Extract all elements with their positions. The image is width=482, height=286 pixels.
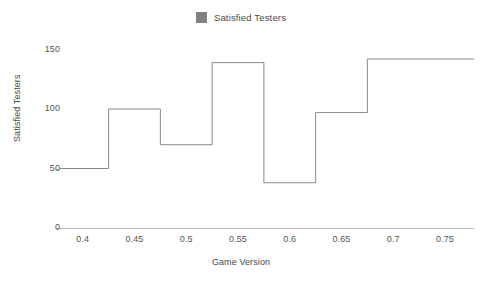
- x-tick-label: 0.65: [322, 234, 362, 244]
- x-tick-label: 0.45: [115, 234, 155, 244]
- y-axis-title-text: Satisfied Testers: [12, 74, 22, 142]
- x-tick-label: 0.4: [63, 234, 103, 244]
- y-tick-label: 100: [24, 103, 60, 113]
- x-tick-label: 0.6: [270, 234, 310, 244]
- x-tick-label: 0.75: [425, 234, 465, 244]
- x-tick-label: 0.5: [166, 234, 206, 244]
- chart-container: Satisfied Testers 0 50 100 150 0.4 0.45 …: [0, 0, 482, 286]
- y-tick-label: 50: [24, 163, 60, 173]
- x-tick-label: 0.7: [373, 234, 413, 244]
- x-axis-title: Game Version: [0, 257, 482, 267]
- y-tick-label: 0: [24, 222, 60, 232]
- series-line-satisfied-testers: [60, 59, 474, 183]
- x-tick-label: 0.55: [218, 234, 258, 244]
- y-tick-label: 150: [24, 44, 60, 54]
